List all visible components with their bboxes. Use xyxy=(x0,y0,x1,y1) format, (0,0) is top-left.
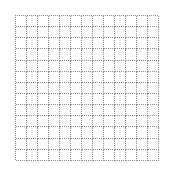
grid-cell xyxy=(71,38,82,49)
grid-cell xyxy=(82,127,93,138)
grid-cell xyxy=(115,27,126,38)
grid-cell xyxy=(71,27,82,38)
grid-cell xyxy=(27,116,38,127)
grid-cell xyxy=(49,94,60,105)
grid-cell xyxy=(115,105,126,116)
grid-cell xyxy=(60,49,71,60)
grid-cell xyxy=(126,127,137,138)
grid-cell xyxy=(93,139,104,150)
grid-cell xyxy=(126,83,137,94)
grid-cell xyxy=(93,127,104,138)
grid-cell xyxy=(148,61,159,72)
grid-cell xyxy=(82,94,93,105)
grid-cell xyxy=(16,116,27,127)
grid-cell xyxy=(60,16,71,27)
grid-cell xyxy=(137,94,148,105)
grid-cell xyxy=(126,16,137,27)
grid-cell xyxy=(148,150,159,161)
grid-cell xyxy=(71,83,82,94)
grid-cell xyxy=(27,27,38,38)
grid-cell xyxy=(126,38,137,49)
grid-cell xyxy=(71,61,82,72)
grid-cell xyxy=(104,116,115,127)
grid-cell xyxy=(104,83,115,94)
grid-cell xyxy=(93,150,104,161)
grid-cell xyxy=(82,38,93,49)
grid-cell xyxy=(137,49,148,60)
grid-cell xyxy=(93,72,104,83)
grid-cell xyxy=(71,49,82,60)
grid-cell xyxy=(82,27,93,38)
grid-cell xyxy=(49,83,60,94)
grid-cell xyxy=(104,139,115,150)
grid-cell xyxy=(82,83,93,94)
grid-cell xyxy=(137,105,148,116)
grid-cell xyxy=(16,105,27,116)
grid-cell xyxy=(126,139,137,150)
grid-cell xyxy=(27,83,38,94)
grid-cell xyxy=(82,116,93,127)
grid-cell xyxy=(71,139,82,150)
grid-cell xyxy=(60,116,71,127)
grid-cell xyxy=(49,72,60,83)
grid-cell xyxy=(49,150,60,161)
grid-cell xyxy=(38,116,49,127)
grid-cell xyxy=(104,94,115,105)
grid-cell xyxy=(115,16,126,27)
grid-cell xyxy=(71,127,82,138)
grid-cell xyxy=(27,72,38,83)
grid-cell xyxy=(104,105,115,116)
grid-cell xyxy=(82,49,93,60)
grid-cell xyxy=(38,105,49,116)
grid-cell xyxy=(137,127,148,138)
grid-cell xyxy=(148,94,159,105)
grid-cell xyxy=(38,16,49,27)
grid-cell xyxy=(16,94,27,105)
grid-cell xyxy=(38,150,49,161)
grid-cell xyxy=(60,105,71,116)
grid-cell xyxy=(126,116,137,127)
grid-cell xyxy=(148,49,159,60)
grid-cell xyxy=(60,139,71,150)
grid-cell xyxy=(93,116,104,127)
grid-cell xyxy=(60,83,71,94)
grid-cell xyxy=(60,38,71,49)
grid-cell xyxy=(104,49,115,60)
grid-cell xyxy=(16,83,27,94)
grid-cell xyxy=(16,139,27,150)
grid-cell xyxy=(60,127,71,138)
grid-cell xyxy=(16,49,27,60)
grid-cell xyxy=(115,61,126,72)
grid-cell xyxy=(115,150,126,161)
grid-cell xyxy=(115,83,126,94)
grid-cell xyxy=(115,116,126,127)
grid-cell xyxy=(82,139,93,150)
grid-cell xyxy=(38,27,49,38)
grid-cell xyxy=(27,16,38,27)
grid-cell xyxy=(27,105,38,116)
grid-cell xyxy=(49,38,60,49)
grid-cell xyxy=(115,94,126,105)
grid-cell xyxy=(115,139,126,150)
grid-cell xyxy=(148,27,159,38)
grid-cell xyxy=(137,72,148,83)
grid-cell xyxy=(49,127,60,138)
grid-cell xyxy=(16,61,27,72)
grid-cell xyxy=(71,150,82,161)
grid-cell xyxy=(82,150,93,161)
grid-cell xyxy=(38,94,49,105)
grid-cell xyxy=(49,105,60,116)
grid-cell xyxy=(49,116,60,127)
grid-cell xyxy=(82,16,93,27)
grid-cell xyxy=(38,38,49,49)
grid-cell xyxy=(137,61,148,72)
grid-cell xyxy=(126,61,137,72)
grid-cell xyxy=(27,127,38,138)
grid-cell xyxy=(16,150,27,161)
grid-cell xyxy=(137,16,148,27)
grid-cell xyxy=(16,38,27,49)
grid-cell xyxy=(16,72,27,83)
grid-cell xyxy=(82,72,93,83)
grid-cell xyxy=(60,150,71,161)
grid-cell xyxy=(60,27,71,38)
